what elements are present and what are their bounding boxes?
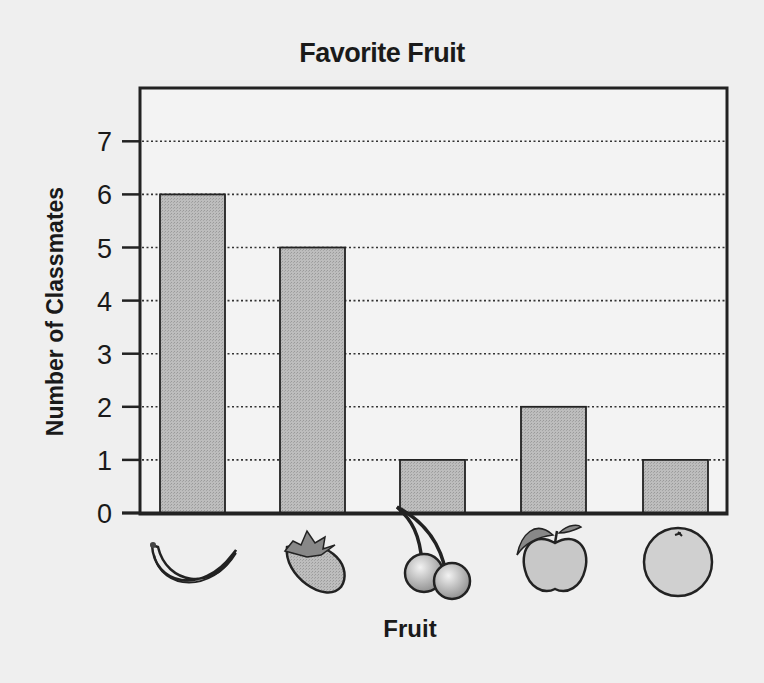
bar-apple [521, 407, 586, 513]
bar-orange [643, 460, 708, 513]
cherries-icon [397, 507, 470, 599]
bar-cherries [400, 460, 465, 513]
y-tick-label: 7 [97, 127, 112, 157]
bar-strawberry [280, 248, 345, 514]
y-tick-label: 4 [97, 287, 112, 317]
y-tick-label: 5 [97, 234, 112, 264]
bar-chart: 01234567 [0, 0, 764, 683]
y-tick-label: 1 [97, 446, 112, 476]
y-tick-label: 0 [97, 499, 112, 529]
banana-icon [150, 542, 236, 583]
y-tick-label: 2 [97, 393, 112, 423]
y-tick-label: 6 [97, 180, 112, 210]
y-axis-ticks: 01234567 [97, 127, 141, 529]
apple-icon [517, 525, 586, 591]
y-tick-label: 3 [97, 340, 112, 370]
orange-icon [644, 528, 712, 596]
strawberry-icon [285, 531, 345, 592]
bar-banana [160, 194, 225, 513]
